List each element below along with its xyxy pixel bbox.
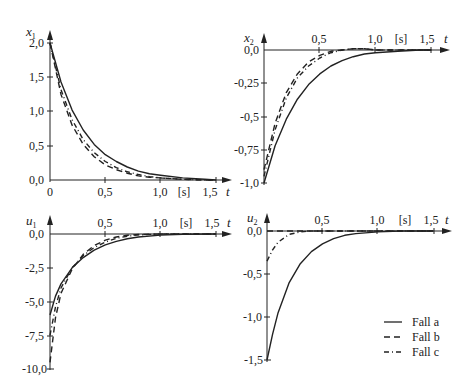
legend-item-fall-b: Fall b <box>384 330 440 344</box>
panel-x2: 0,0 -0,25 -0,5 -0,75 -1,0 0,5 1,0 [s] 1,… <box>234 30 450 190</box>
legend-item-fall-a: Fall a <box>384 315 440 329</box>
x-unit-label: [s] <box>399 213 412 227</box>
x-tick-label: 0,5 <box>98 216 113 230</box>
y-axis-label: u1 <box>26 213 37 230</box>
legend-item-fall-c: Fall c <box>384 345 439 359</box>
y-tick-label: -0,25 <box>234 76 259 90</box>
x-axis-arrow-icon <box>222 177 232 183</box>
x-unit-label: [s] <box>180 216 193 230</box>
x-axis-arrow-icon <box>442 228 452 234</box>
y-tick-label: 0,5 <box>29 139 44 153</box>
curve-fall-b <box>50 43 216 180</box>
y-tick-label: 0,0 <box>29 227 44 241</box>
x-tick-label: 1,0 <box>368 32 383 46</box>
x-unit-label: [s] <box>395 32 408 46</box>
legend-label: Fall a <box>412 315 440 329</box>
curve-fall-a <box>50 234 216 315</box>
y-tick-label: -0,75 <box>234 143 259 157</box>
x-axis-label: t <box>444 31 448 46</box>
x-tick-label: 0 <box>47 185 53 199</box>
y-axis-label: x1 <box>25 24 36 41</box>
x-tick-label: 0,5 <box>312 32 327 46</box>
x-tick-label: 1,5 <box>203 185 218 199</box>
x-axis-arrow-icon <box>440 47 450 53</box>
y-axis-arrow-icon <box>264 213 270 223</box>
chart-figure: 2,0 1,5 1,0 0,5 0,0 0 0,5 1,0 [s] 1,5 t … <box>0 0 469 390</box>
curve-fall-b <box>264 49 431 170</box>
y-tick-label: 1,5 <box>29 70 44 84</box>
legend-label: Fall c <box>412 345 439 359</box>
y-tick-label: -0,5 <box>243 267 262 281</box>
curve-fall-a <box>264 50 431 183</box>
curve-fall-c <box>50 43 216 180</box>
x-tick-label: 1,5 <box>420 32 435 46</box>
y-tick-label: -1,0 <box>240 176 259 190</box>
panel-x1: 2,0 1,5 1,0 0,5 0,0 0 0,5 1,0 [s] 1,5 t … <box>25 24 232 199</box>
panel-u1: 0,0 -2,5 -5,0 -7,5 -10,0 0,5 1,0 [s] 1,5… <box>22 213 232 376</box>
x-tick-label: 1,0 <box>153 185 168 199</box>
curve-fall-c <box>264 49 431 177</box>
curves <box>50 234 216 362</box>
curves <box>264 49 431 183</box>
y-tick-label: -7,5 <box>25 329 44 343</box>
x-tick-label: 1,0 <box>370 213 385 227</box>
x-axis-label: t <box>227 215 231 230</box>
x-tick-label: 1,5 <box>205 216 220 230</box>
curve-fall-a <box>267 231 434 360</box>
legend-label: Fall b <box>412 330 440 344</box>
y-tick-label: 1,0 <box>29 104 44 118</box>
y-tick-label: -10,0 <box>22 362 47 376</box>
x-axis-arrow-icon <box>222 231 232 237</box>
x-tick-label: 1,0 <box>153 216 168 230</box>
y-axis-label: u2 <box>247 210 258 227</box>
x-tick-label: 0,5 <box>98 185 113 199</box>
curves <box>267 231 434 360</box>
y-tick-label: -0,5 <box>240 110 259 124</box>
y-axis-arrow-icon <box>261 33 267 43</box>
y-axis-label: x2 <box>243 30 254 47</box>
legend: Fall a Fall b Fall c <box>384 315 440 359</box>
y-axis-arrow-icon <box>47 30 53 40</box>
y-tick-label: 0,0 <box>29 173 44 187</box>
curve-fall-c <box>267 231 434 261</box>
x-tick-label: 1,5 <box>424 213 439 227</box>
y-tick-label: -5,0 <box>25 295 44 309</box>
y-tick-label: -1,5 <box>244 353 263 367</box>
curve-fall-b <box>50 234 216 362</box>
curve-fall-c <box>50 234 216 335</box>
x-axis-label: t <box>226 184 230 199</box>
y-tick-label: -1,0 <box>243 310 262 324</box>
curves <box>50 43 216 180</box>
x-axis-label: t <box>445 212 449 227</box>
curve-fall-a <box>50 43 216 180</box>
x-tick-label: 0,5 <box>315 213 330 227</box>
y-tick-label: -2,5 <box>25 261 44 275</box>
y-axis-arrow-icon <box>47 215 53 225</box>
x-unit-label: [s] <box>178 185 191 199</box>
